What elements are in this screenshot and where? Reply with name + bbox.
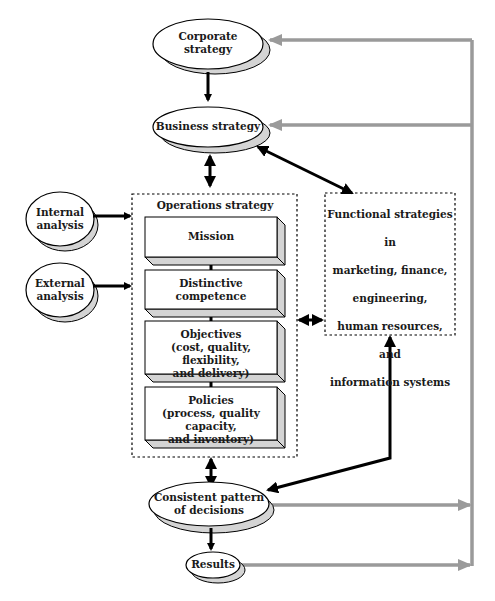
- block-policies: Policies (process, quality capacity, and…: [145, 394, 277, 446]
- consistent-pattern-label: Consistent pattern of decisions: [150, 491, 268, 517]
- results-label: Results: [186, 558, 240, 571]
- business-strategy-label: Business strategy: [153, 120, 263, 133]
- internal-analysis-label: Internal analysis: [26, 206, 94, 232]
- operations-strategy-title: Operations strategy: [135, 199, 295, 212]
- arrow-business-functional: [258, 147, 352, 193]
- functional-strategies-label: Functional strategies in marketing, fina…: [326, 200, 454, 396]
- block-mission: Mission: [145, 230, 277, 243]
- block-objectives: Objectives (cost, quality, flexibility, …: [145, 328, 277, 380]
- corporate-strategy-label: Corporate strategy: [158, 30, 258, 56]
- block-distinctive-competence: Distinctive competence: [145, 277, 277, 303]
- external-analysis-label: External analysis: [26, 277, 94, 303]
